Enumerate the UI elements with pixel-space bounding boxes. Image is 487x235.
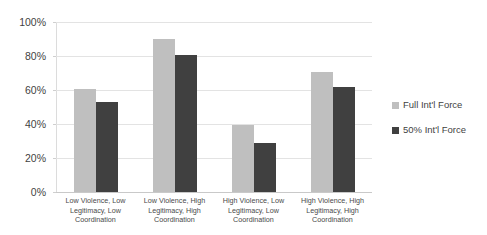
y-tick-label: 0% bbox=[31, 187, 46, 197]
x-category-label: High Violence, Low Legitimacy, Low Coord… bbox=[214, 196, 293, 235]
x-category-label: Low Violence, Low Legitimacy, Low Coordi… bbox=[56, 196, 135, 235]
y-axis: 100% 80% 60% 40% 20% 0% bbox=[0, 15, 52, 195]
bar-half-force[interactable] bbox=[254, 143, 276, 193]
x-label-line: Coordination bbox=[295, 215, 370, 225]
x-category-label: Low Violence, High Legitimacy, High Coor… bbox=[135, 196, 214, 235]
y-tick-label: 100% bbox=[19, 17, 46, 27]
y-tick-label: 60% bbox=[25, 85, 46, 95]
legend-label: Full Int'l Force bbox=[403, 100, 462, 110]
x-label-line: Legitimacy, High bbox=[137, 206, 212, 216]
bar-full-force[interactable] bbox=[74, 89, 96, 193]
legend-item-full-force[interactable]: Full Int'l Force bbox=[392, 100, 487, 110]
bar-half-force[interactable] bbox=[333, 87, 355, 193]
legend-swatch-icon bbox=[392, 102, 399, 109]
bar-chart: 100% 80% 60% 40% 20% 0% bbox=[0, 0, 487, 235]
x-category-label: High Violence, High Legitimacy, High Coo… bbox=[293, 196, 372, 235]
x-label-line: Coordination bbox=[216, 215, 291, 225]
y-tick-label: 40% bbox=[25, 119, 46, 129]
x-label-line: Coordination bbox=[58, 215, 133, 225]
bar-half-force[interactable] bbox=[96, 102, 118, 193]
x-label-line: Low Violence, Low bbox=[58, 196, 133, 206]
bar-full-force[interactable] bbox=[232, 125, 254, 193]
x-label-line: High Violence, Low bbox=[216, 196, 291, 206]
legend-label: 50% Int'l Force bbox=[403, 125, 466, 135]
x-label-line: High Violence, High bbox=[295, 196, 370, 206]
x-axis-line bbox=[56, 192, 372, 193]
bar-group bbox=[293, 22, 372, 193]
cropped-title-artifact bbox=[0, 0, 487, 7]
x-axis-labels: Low Violence, Low Legitimacy, Low Coordi… bbox=[56, 196, 372, 235]
bar-group bbox=[56, 22, 135, 193]
legend-swatch-icon bbox=[392, 127, 399, 134]
y-tick-label: 20% bbox=[25, 153, 46, 163]
bar-group bbox=[135, 22, 214, 193]
legend: Full Int'l Force 50% Int'l Force bbox=[392, 100, 487, 150]
bar-group bbox=[214, 22, 293, 193]
x-label-line: Legitimacy, High bbox=[295, 206, 370, 216]
x-label-line: Legitimacy, Low bbox=[216, 206, 291, 216]
x-label-line: Low Violence, High bbox=[137, 196, 212, 206]
legend-item-half-force[interactable]: 50% Int'l Force bbox=[392, 125, 487, 135]
bar-full-force[interactable] bbox=[311, 72, 333, 193]
plot-area bbox=[56, 22, 372, 193]
bar-half-force[interactable] bbox=[175, 55, 197, 194]
x-label-line: Legitimacy, Low bbox=[58, 206, 133, 216]
y-tick-label: 80% bbox=[25, 51, 46, 61]
bar-groups bbox=[56, 22, 372, 193]
x-label-line: Coordination bbox=[137, 215, 212, 225]
bar-full-force[interactable] bbox=[153, 39, 175, 193]
